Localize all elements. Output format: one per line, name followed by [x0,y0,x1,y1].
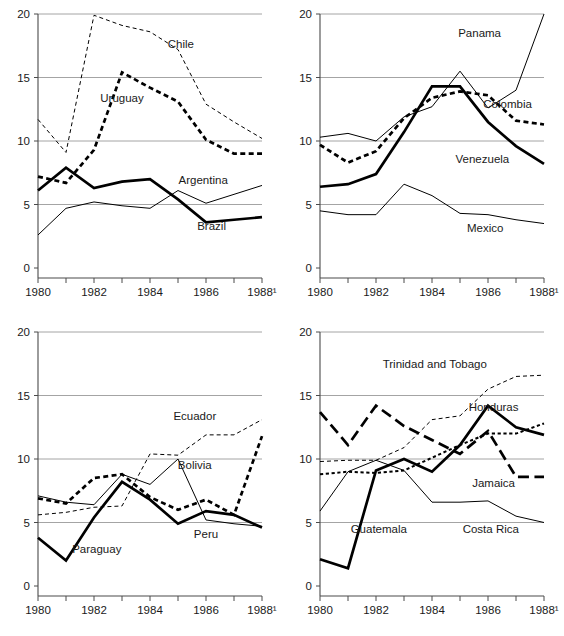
y-tick-label-10: 10 [17,135,30,147]
y-axis-group: 05101520 [17,326,262,596]
series-label-costa-rica: Costa Rica [463,523,520,535]
x-tick-label-1984: 1984 [419,604,445,616]
panel-bottom-left-plot: 0510152019801982198419861988¹EcuadorBoli… [0,318,282,636]
series-line-mexico [320,184,544,223]
y-tick-label-10: 10 [17,453,30,465]
series-label-trinidad-and-tobago: Trinidad and Tobago [383,358,487,370]
x-tick-label-1986: 1986 [193,286,219,298]
series-label-guatemala: Guatemala [351,523,408,535]
y-tick-label-20: 20 [299,8,312,20]
y-tick-label-0: 0 [306,262,312,274]
y-tick-label-20: 20 [17,326,30,338]
y-tick-label-5: 5 [24,199,30,211]
x-axis-group: 19801982198419861988¹ [307,596,559,616]
x-tick-label-1986: 1986 [475,604,501,616]
x-tick-label-1988: 1988¹ [247,604,277,616]
x-tick-label-1986: 1986 [193,604,219,616]
x-tick-label-1980: 1980 [307,604,333,616]
x-tick-label-1980: 1980 [307,286,333,298]
x-axis-group: 19801982198419861988¹ [307,278,559,298]
series-line-peru [38,459,262,526]
series-line-uruguay [38,72,262,182]
x-axis-group: 19801982198419861988¹ [25,596,277,616]
x-tick-label-1988: 1988¹ [529,604,559,616]
multi-panel-line-chart-figure: 0510152019801982198419861988¹ChileUrugua… [0,0,564,636]
series-label-chile: Chile [168,38,194,50]
series-label-colombia: Colombia [483,98,532,110]
y-tick-label-0: 0 [306,580,312,592]
y-tick-label-0: 0 [24,580,30,592]
series-label-venezuela: Venezuela [456,153,510,165]
x-tick-label-1982: 1982 [363,286,389,298]
series-label-ecuador: Ecuador [173,410,216,422]
y-tick-label-20: 20 [17,8,30,20]
series-label-peru: Peru [194,528,218,540]
x-tick-label-1986: 1986 [475,286,501,298]
x-axis-group: 19801982198419861988¹ [25,278,277,298]
y-tick-label-15: 15 [299,72,312,84]
series-line-jamaica [320,406,544,477]
x-tick-label-1980: 1980 [25,604,51,616]
panel-bottom-left: 0510152019801982198419861988¹EcuadorBoli… [0,318,282,636]
y-tick-label-5: 5 [306,517,312,529]
series-line-trinidad-and-tobago [320,375,544,461]
x-tick-label-1988: 1988¹ [247,286,277,298]
series-line-chile [38,15,262,152]
series-label-uruguay: Uruguay [100,92,144,104]
y-tick-label-15: 15 [299,390,312,402]
series-label-paraguay: Paraguay [72,543,121,555]
y-tick-label-5: 5 [306,199,312,211]
x-tick-label-1982: 1982 [363,604,389,616]
panel-top-left-plot: 0510152019801982198419861988¹ChileUrugua… [0,0,282,318]
series-label-mexico: Mexico [467,222,503,234]
x-tick-label-1984: 1984 [419,286,445,298]
series-label-argentina: Argentina [179,174,229,186]
y-tick-label-5: 5 [24,517,30,529]
x-tick-label-1984: 1984 [137,604,163,616]
panel-top-right: 0510152019801982198419861988¹PanamaColom… [282,0,564,318]
series-label-honduras: Honduras [469,401,519,413]
series-label-jamaica: Jamaica [472,477,515,489]
y-tick-label-20: 20 [299,326,312,338]
series-label-bolivia: Bolivia [178,459,212,471]
x-tick-label-1982: 1982 [81,286,107,298]
series-label-brazil: Brazil [197,220,226,232]
panel-top-right-plot: 0510152019801982198419861988¹PanamaColom… [282,0,564,318]
series-label-panama: Panama [458,27,501,39]
y-axis-group: 05101520 [17,8,262,278]
panel-bottom-right-plot: 0510152019801982198419861988¹Trinidad an… [282,318,564,636]
panel-bottom-right: 0510152019801982198419861988¹Trinidad an… [282,318,564,636]
y-tick-label-10: 10 [299,453,312,465]
panel-top-left: 0510152019801982198419861988¹ChileUrugua… [0,0,282,318]
series-line-argentina [38,185,262,235]
x-tick-label-1982: 1982 [81,604,107,616]
x-tick-label-1988: 1988¹ [529,286,559,298]
x-tick-label-1984: 1984 [137,286,163,298]
y-tick-label-15: 15 [17,72,30,84]
x-tick-label-1980: 1980 [25,286,51,298]
y-axis-group: 05101520 [299,8,544,278]
y-tick-label-15: 15 [17,390,30,402]
y-tick-label-0: 0 [24,262,30,274]
y-tick-label-10: 10 [299,135,312,147]
